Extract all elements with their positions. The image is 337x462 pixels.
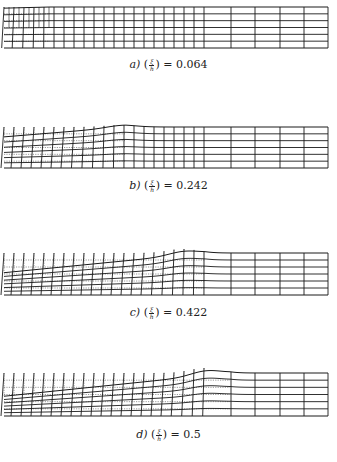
- equals-sign: =: [164, 179, 173, 192]
- mesh-column-line: [113, 125, 114, 168]
- panel-label: b): [129, 179, 140, 192]
- close-paren: ): [163, 428, 171, 441]
- ratio-value: 0.242: [176, 179, 208, 192]
- panel-caption-b: b) (ξh) = 0.242: [0, 179, 337, 193]
- mesh-column-line: [2, 7, 4, 48]
- panel-label: a): [130, 58, 141, 71]
- equals-sign: =: [163, 58, 172, 71]
- mesh-panel-c: [1, 249, 328, 295]
- mesh-row-line: [4, 14, 328, 15]
- equals-sign: =: [163, 306, 172, 319]
- mesh-row-line: [4, 28, 328, 29]
- fraction-denominator: h: [149, 66, 154, 72]
- open-paren: (: [148, 428, 156, 441]
- panel-label: d): [136, 428, 147, 441]
- close-paren: ): [156, 179, 164, 192]
- panel-caption-d: d) (ξh) = 0.5: [0, 428, 337, 442]
- panel-caption-c: c) (ξh) = 0.422: [0, 306, 337, 320]
- panel-caption-a: a) (ξh) = 0.064: [0, 58, 337, 72]
- fraction-denominator: h: [149, 314, 154, 320]
- mesh-column-line: [33, 7, 34, 48]
- open-paren: (: [141, 179, 149, 192]
- ratio-fraction: ξh: [149, 180, 154, 193]
- fraction-denominator: h: [156, 436, 161, 442]
- mesh-column-line: [111, 373, 114, 416]
- mesh-column-line: [111, 253, 114, 295]
- mesh-column-line: [61, 253, 64, 295]
- mesh-row-line: [4, 21, 328, 22]
- mesh-column-line: [51, 253, 54, 295]
- mesh-panel-a: [2, 7, 328, 48]
- mesh-column-line: [121, 253, 124, 295]
- mesh-row-line: [4, 7, 328, 8]
- open-paren: (: [140, 58, 148, 71]
- ratio-value: 0.064: [176, 58, 208, 71]
- ratio-fraction: ξh: [149, 307, 154, 320]
- mesh-column-line: [193, 250, 194, 295]
- mesh-row-line: [4, 401, 328, 410]
- mesh-column-line: [51, 373, 54, 416]
- mesh-column-line: [1, 373, 4, 416]
- panel-label: c): [130, 306, 140, 319]
- mesh-column-line: [1, 127, 4, 168]
- ratio-value: 0.422: [176, 306, 208, 319]
- ratio-fraction: ξh: [149, 59, 154, 72]
- mesh-column-line: [1, 253, 4, 295]
- open-paren: (: [140, 306, 148, 319]
- mesh-panel-d: [1, 368, 328, 416]
- mesh-row-line: [4, 125, 328, 137]
- equals-sign: =: [171, 428, 180, 441]
- ratio-value: 0.5: [183, 428, 201, 441]
- fraction-denominator: h: [149, 187, 154, 193]
- close-paren: ): [155, 306, 163, 319]
- ratio-fraction: ξh: [156, 429, 161, 442]
- mesh-panel-b: [1, 125, 328, 168]
